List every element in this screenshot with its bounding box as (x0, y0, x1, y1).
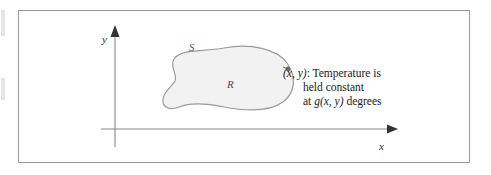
region-boundary-label-s: S (189, 42, 195, 53)
annotation-text-block: (x, y): Temperature is held constant at … (283, 66, 458, 108)
scan-artifact-top (1, 10, 5, 36)
annotation-line-1: (x, y): Temperature is (283, 66, 458, 80)
scan-artifact-bottom (1, 78, 5, 100)
annotation-line-1-rest: : Temperature is (307, 67, 381, 79)
x-axis-label: x (379, 141, 384, 152)
annotation-point-coords: (x, y) (283, 67, 307, 79)
annotation-line-3: at g(x, y) degrees (283, 94, 458, 108)
annotation-line-3-prefix: at (303, 95, 314, 107)
figure-frame-border: y x S R (x, y): Temperature is held cons… (18, 10, 470, 163)
annotation-line-3-suffix: degrees (344, 95, 382, 107)
figure-container: y x S R (x, y): Temperature is held cons… (0, 0, 491, 175)
annotation-line-2: held constant (283, 80, 458, 94)
y-axis-label: y (102, 34, 107, 45)
x-axis (101, 125, 398, 134)
annotation-function-expression: g(x, y) (314, 95, 343, 107)
region-interior-label-r: R (227, 79, 234, 90)
